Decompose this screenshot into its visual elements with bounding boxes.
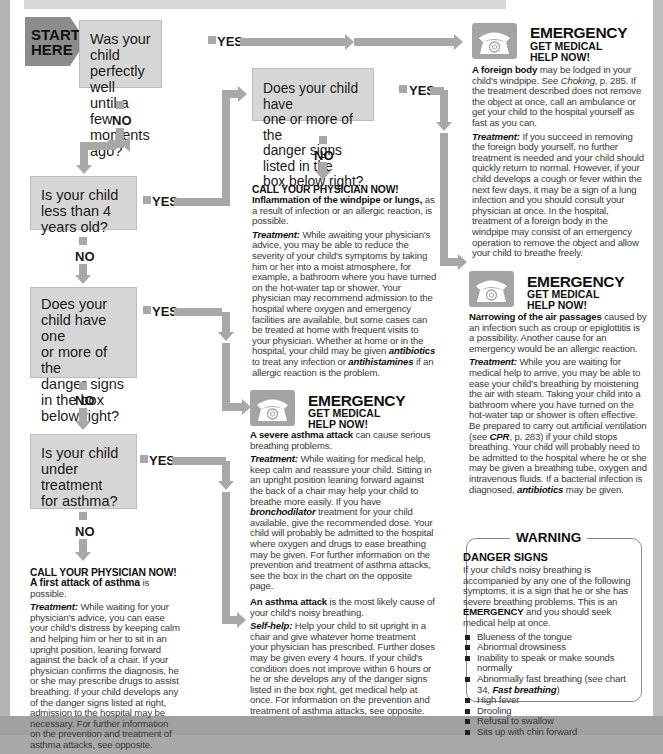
arrow-shaft bbox=[222, 616, 238, 624]
page-margin-right bbox=[653, 0, 663, 735]
danger-signs-text: If your child's noisy breathing is accom… bbox=[463, 565, 641, 738]
arrow-down-icon bbox=[218, 332, 234, 341]
arrow-down-icon bbox=[218, 481, 234, 490]
yes-marker bbox=[143, 306, 151, 314]
yes-marker bbox=[140, 455, 148, 463]
arrow-down-icon bbox=[436, 122, 452, 131]
emergency-subtitle: GET MEDICAL HELP NOW! bbox=[527, 289, 599, 311]
question-danger-signs-older: Does your child have one or more of the … bbox=[30, 287, 137, 378]
foreign-body-text: A foreign body may be lodged in your chi… bbox=[472, 65, 646, 262]
first-asthma-text: CALL YOUR PHYSICIAN NOW! A first attack … bbox=[30, 567, 180, 754]
asthma-attack-text: An asthma attack is the most likely caus… bbox=[250, 597, 435, 720]
question-danger-signs-young: Does your child have one or more of the … bbox=[252, 68, 374, 121]
yes-marker bbox=[399, 85, 407, 93]
arrow-shaft bbox=[222, 343, 230, 403]
arrow-shaft bbox=[222, 403, 242, 411]
arrow-right-icon bbox=[345, 34, 354, 50]
telephone-icon bbox=[469, 271, 514, 307]
arrow-down-icon bbox=[76, 165, 92, 174]
arrow-shaft bbox=[172, 457, 226, 465]
arrow-right-icon bbox=[458, 254, 467, 270]
danger-sign-item: Sits up with chin forward bbox=[463, 727, 641, 738]
severe-asthma-text: A severe asthma attack can cause serious… bbox=[250, 430, 435, 595]
no-label: NO bbox=[75, 249, 95, 264]
emergency-subtitle: GET MEDICAL HELP NOW! bbox=[308, 408, 380, 430]
arrow-shaft bbox=[240, 38, 345, 46]
question-perfectly-well: Was your child perfectly well until a fe… bbox=[79, 20, 162, 88]
emergency-title: EMERGENCY bbox=[530, 25, 627, 40]
no-label: NO bbox=[112, 113, 132, 128]
arrow-shaft bbox=[222, 90, 238, 98]
no-marker bbox=[116, 101, 124, 109]
arrow-shaft bbox=[174, 308, 222, 316]
arrow-shaft bbox=[440, 258, 458, 266]
no-label: NO bbox=[75, 524, 95, 539]
page-margin-left bbox=[0, 0, 10, 735]
arrow-shaft bbox=[440, 133, 448, 258]
arrow-shaft bbox=[222, 98, 230, 206]
yes-marker bbox=[208, 36, 216, 44]
yes-marker bbox=[143, 196, 151, 204]
no-marker bbox=[79, 512, 87, 520]
header-strip bbox=[24, 0, 506, 9]
danger-signs-heading: DANGER SIGNS bbox=[463, 551, 548, 563]
arrow-shaft bbox=[222, 312, 230, 332]
telephone-icon bbox=[250, 390, 295, 426]
arrow-shaft bbox=[79, 408, 87, 422]
emergency-title: EMERGENCY bbox=[527, 274, 624, 289]
no-marker bbox=[319, 136, 327, 144]
arrow-down-icon bbox=[75, 421, 91, 430]
no-label: NO bbox=[75, 393, 95, 408]
arrow-down-icon bbox=[75, 275, 91, 284]
question-under-4: Is your child less than 4 years old? bbox=[30, 176, 137, 230]
no-label: NO bbox=[314, 148, 334, 163]
narrowing-text: Narrowing of the air passages caused by … bbox=[469, 312, 647, 498]
start-here-label: START HERE bbox=[31, 27, 80, 57]
no-marker bbox=[79, 237, 87, 245]
danger-sign-item: Abnormally fast breathing (see chart 34,… bbox=[463, 674, 641, 695]
arrow-down-icon bbox=[75, 552, 91, 561]
telephone-icon bbox=[472, 23, 517, 59]
arrow-shaft bbox=[80, 142, 88, 166]
arrow-shaft bbox=[440, 90, 448, 122]
arrow-shaft bbox=[84, 142, 116, 150]
danger-signs-list: Blueness of the tongue Abnormal drowsine… bbox=[463, 632, 641, 738]
arrow-right-icon bbox=[238, 86, 247, 102]
emergency-subtitle: GET MEDICAL HELP NOW! bbox=[530, 41, 602, 63]
arrow-right-icon bbox=[454, 34, 463, 50]
arrow-shaft bbox=[354, 38, 454, 46]
arrow-down-icon bbox=[315, 171, 331, 180]
danger-sign-item: Inability to speak or make sounds normal… bbox=[463, 653, 641, 674]
arrow-left-icon bbox=[121, 136, 130, 152]
arrow-shaft bbox=[79, 539, 87, 553]
arrow-shaft bbox=[222, 461, 230, 481]
arrow-shaft bbox=[222, 492, 230, 620]
inflammation-text: CALL YOUR PHYSICIAN NOW! Inflammation of… bbox=[252, 184, 437, 381]
warning-title: WARNING bbox=[510, 530, 587, 545]
arrow-right-icon bbox=[237, 612, 246, 628]
no-marker bbox=[79, 382, 87, 390]
question-asthma-treatment: Is your child under treatment for asthma… bbox=[30, 434, 137, 509]
emergency-title: EMERGENCY bbox=[308, 393, 405, 408]
